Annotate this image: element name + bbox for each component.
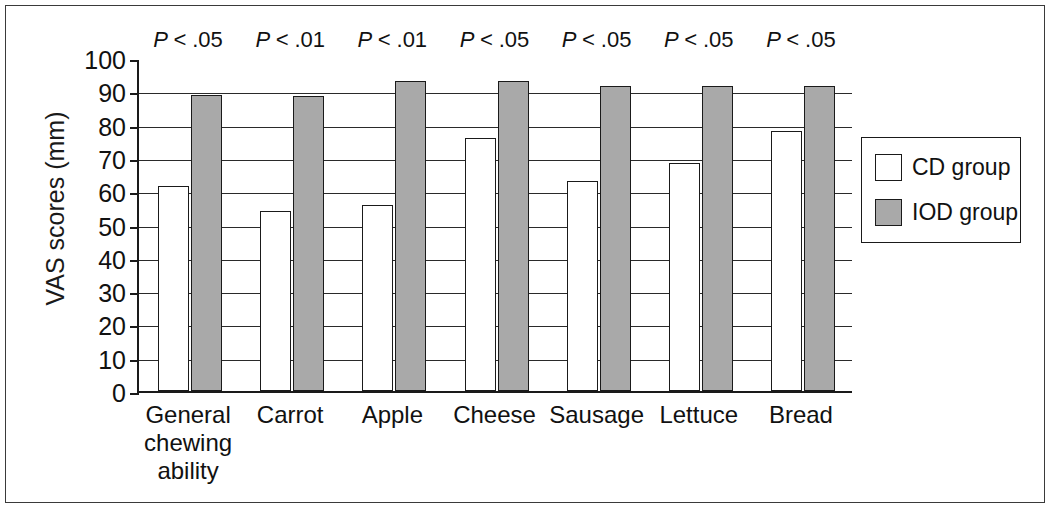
bar (158, 186, 189, 391)
y-tick-mark (130, 293, 139, 295)
y-tick-mark (130, 93, 139, 95)
y-tick-label: 70 (98, 148, 126, 173)
y-tick-label: 10 (98, 348, 126, 373)
pvalue-annotation: P < .05 (443, 27, 545, 53)
pvalue-annotation: P < .05 (137, 27, 239, 53)
legend-item-cd-group: CD group (875, 154, 1010, 181)
y-tick-label: 60 (98, 181, 126, 206)
y-tick-label: 90 (98, 81, 126, 106)
bar (260, 211, 291, 391)
bar (702, 86, 733, 391)
figure-frame: VAS scores (mm) 1009080706050403020100 P… (5, 5, 1045, 503)
y-tick-mark (130, 160, 139, 162)
y-tick-mark (130, 260, 139, 262)
y-tick-mark (130, 60, 139, 62)
y-tick-label: 40 (98, 248, 126, 273)
category-label-line: ability (123, 457, 253, 485)
y-tick-mark (130, 193, 139, 195)
bar (293, 96, 324, 391)
y-tick-mark (130, 227, 139, 229)
legend-swatch-cd-group (875, 154, 902, 181)
y-axis-tick-labels: 1009080706050403020100 (44, 60, 126, 393)
legend-swatch-iod-group (875, 199, 902, 226)
pvalue-annotation: P < .01 (341, 27, 443, 53)
bar (465, 138, 496, 391)
x-axis-category-label: Bread (736, 401, 866, 429)
pvalue-annotation: P < .01 (239, 27, 341, 53)
y-tick-mark (130, 127, 139, 129)
y-tick-label: 30 (98, 281, 126, 306)
category-label-line: Bread (736, 401, 866, 429)
y-tick-mark (130, 393, 139, 395)
plot-area (137, 60, 852, 393)
legend-label-iod-group: IOD group (912, 199, 1018, 226)
bar (191, 95, 222, 391)
y-tick-label: 100 (84, 48, 126, 73)
y-tick-mark (130, 360, 139, 362)
bar (804, 86, 835, 391)
category-label-line: chewing (123, 429, 253, 457)
pvalue-annotation: P < .05 (546, 27, 648, 53)
bar (498, 81, 529, 391)
figure-container: VAS scores (mm) 1009080706050403020100 P… (0, 0, 1054, 511)
y-tick-label: 50 (98, 215, 126, 240)
legend-label-cd-group: CD group (912, 154, 1010, 181)
legend: CD group IOD group (861, 137, 1021, 243)
bar (362, 205, 393, 391)
y-tick-label: 20 (98, 314, 126, 339)
bar (669, 163, 700, 391)
bar (567, 181, 598, 391)
bar (600, 86, 631, 391)
pvalue-annotation: P < .05 (648, 27, 750, 53)
y-tick-label: 80 (98, 115, 126, 140)
pvalue-annotation: P < .05 (750, 27, 852, 53)
y-tick-mark (130, 326, 139, 328)
bars-layer (139, 60, 852, 391)
bar (395, 81, 426, 391)
legend-item-iod-group: IOD group (875, 199, 1018, 226)
bar (771, 131, 802, 391)
